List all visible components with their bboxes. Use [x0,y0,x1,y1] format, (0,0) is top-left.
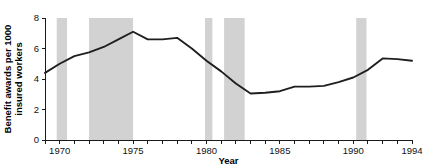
recession-band-0 [57,18,67,140]
x-tick-label-1970: 1970 [49,145,70,156]
x-tick-label-1990: 1990 [343,145,364,156]
recession-band-1 [89,18,133,140]
x-tick-label-1994: 1994 [401,145,422,156]
x-axis-title: Year [218,155,238,166]
x-tick-label-1985: 1985 [269,145,290,156]
y-axis-title-line1: Benefit awards per 1000 [2,25,13,134]
y-tick-label-8: 8 [34,12,39,23]
chart-figure: 02468197019751980198519901994YearBenefit… [0,0,427,168]
y-tick-label-0: 0 [34,134,39,145]
recession-band-2 [205,18,212,140]
y-axis-title-line2: insured workers [13,42,24,115]
y-tick-label-4: 4 [34,73,39,84]
line-chart: 02468197019751980198519901994YearBenefit… [0,0,427,168]
x-tick-label-1975: 1975 [123,145,144,156]
y-tick-label-6: 6 [34,43,39,54]
x-tick-label-1980: 1980 [196,145,217,156]
recession-band-3 [224,18,245,140]
y-tick-label-2: 2 [34,104,39,115]
recession-band-4 [356,18,366,140]
